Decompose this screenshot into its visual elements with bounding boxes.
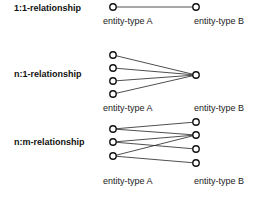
edge-n-m-a0-b0 — [113, 122, 196, 129]
edge-n-1-a1 — [113, 68, 196, 75]
edge-n-m-a2-b3 — [113, 156, 196, 163]
node-circle-icon — [193, 132, 199, 138]
node-circle-icon — [193, 72, 199, 78]
node-circle-icon — [110, 126, 116, 132]
node-circle-icon — [110, 52, 116, 58]
edges — [113, 7, 196, 163]
node-circle-icon — [110, 91, 116, 97]
node-circle-icon — [110, 139, 116, 145]
nodes — [110, 4, 199, 166]
edge-n-1-a0 — [113, 55, 196, 75]
node-circle-icon — [110, 78, 116, 84]
node-circle-icon — [193, 160, 199, 166]
edge-n-m-a0-b1 — [113, 129, 196, 135]
node-circle-icon — [110, 65, 116, 71]
node-circle-icon — [193, 4, 199, 10]
relationship-diagram — [0, 0, 261, 200]
node-circle-icon — [110, 153, 116, 159]
node-circle-icon — [110, 4, 116, 10]
node-circle-icon — [193, 119, 199, 125]
node-circle-icon — [193, 146, 199, 152]
